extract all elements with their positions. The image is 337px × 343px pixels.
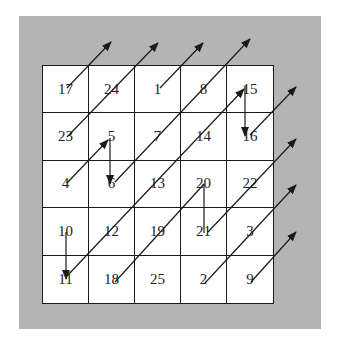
- cell-r3-c4: 20: [181, 161, 227, 208]
- cell-r1-c5: 15: [227, 66, 273, 113]
- cell-r3-c3: 13: [135, 161, 181, 208]
- cell-r3-c1: 4: [43, 161, 89, 208]
- cell-r2-c3: 7: [135, 113, 181, 160]
- cell-r4-c4: 21: [181, 208, 227, 255]
- cell-r4-c2: 12: [89, 208, 135, 255]
- cell-r1-c3: 1: [135, 66, 181, 113]
- cell-r3-c2: 6: [89, 161, 135, 208]
- cell-r2-c1: 23: [43, 113, 89, 160]
- cell-r2-c4: 14: [181, 113, 227, 160]
- cell-r4-c5: 3: [227, 208, 273, 255]
- cell-r5-c1: 11: [43, 256, 89, 303]
- cell-r4-c1: 10: [43, 208, 89, 255]
- cell-r1-c2: 24: [89, 66, 135, 113]
- magic-square-grid: 17 24 1 8 15 23 5 7 14 16 4 6 13 20 22 1…: [42, 65, 274, 304]
- cell-r5-c4: 2: [181, 256, 227, 303]
- cell-r5-c5: 9: [227, 256, 273, 303]
- cell-r5-c3: 25: [135, 256, 181, 303]
- cell-r2-c2: 5: [89, 113, 135, 160]
- cell-r1-c1: 17: [43, 66, 89, 113]
- cell-r2-c5: 16: [227, 113, 273, 160]
- cell-r1-c4: 8: [181, 66, 227, 113]
- cell-r3-c5: 22: [227, 161, 273, 208]
- cell-r4-c3: 19: [135, 208, 181, 255]
- cell-r5-c2: 18: [89, 256, 135, 303]
